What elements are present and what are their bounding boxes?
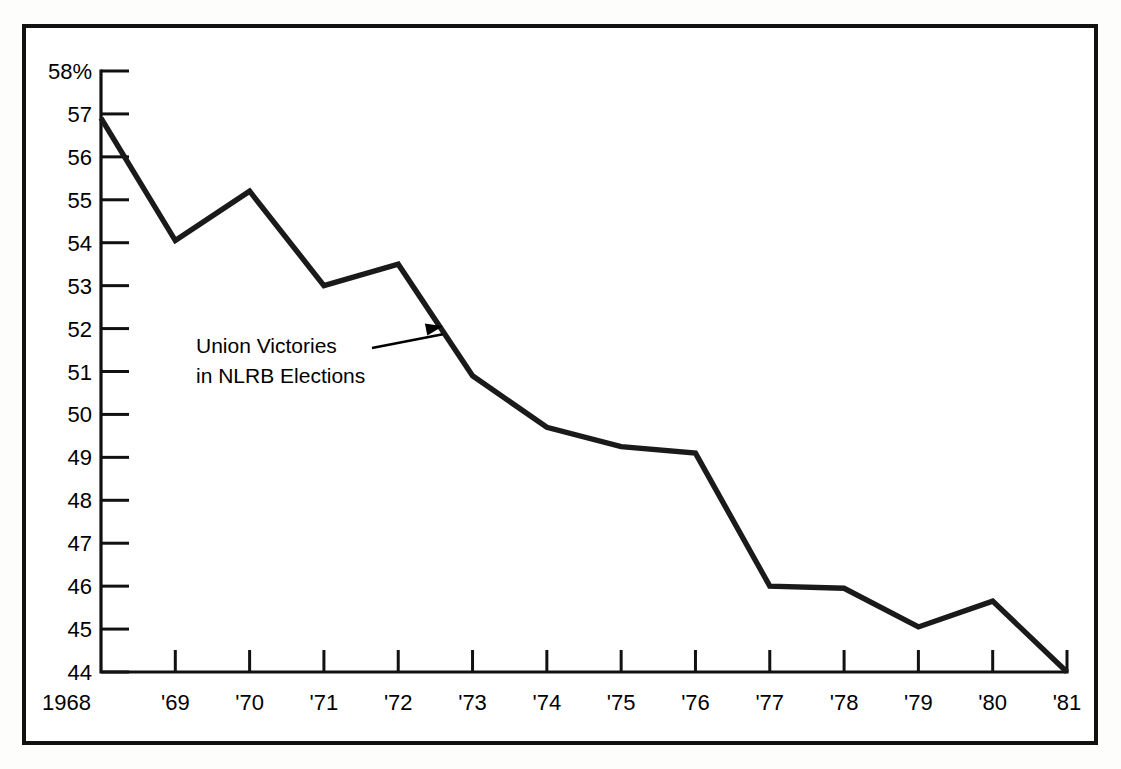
x-tick-label: '71 [310, 690, 339, 715]
x-tick-label: '75 [607, 690, 636, 715]
x-tick-label: '77 [755, 690, 784, 715]
y-tick-label: 58% [48, 59, 92, 84]
x-tick-label: '72 [384, 690, 413, 715]
x-tick-label: '78 [830, 690, 859, 715]
line-chart: 58%5756555453525150494847464544 1968'69'… [0, 0, 1121, 769]
y-axis-tick-labels: 58%5756555453525150494847464544 [48, 59, 92, 685]
x-tick-label: '81 [1053, 690, 1082, 715]
y-tick-label: 56 [68, 145, 92, 170]
x-tick-label: 1968 [42, 690, 91, 715]
y-tick-label: 49 [68, 445, 92, 470]
annotation-line-2: in NLRB Elections [196, 364, 365, 387]
x-tick-label: '74 [533, 690, 562, 715]
chart-svg: 58%5756555453525150494847464544 1968'69'… [0, 0, 1121, 769]
x-axis-ticks [175, 650, 1067, 672]
y-tick-label: 54 [68, 231, 92, 256]
y-tick-label: 53 [68, 274, 92, 299]
y-tick-label: 51 [68, 360, 92, 385]
y-tick-label: 45 [68, 617, 92, 642]
x-axis-tick-labels: 1968'69'70'71'72'73'74'75'76'77'78'79'80… [42, 690, 1081, 715]
y-tick-label: 52 [68, 317, 92, 342]
data-series-line [101, 118, 1067, 672]
y-tick-label: 55 [68, 188, 92, 213]
y-tick-label: 50 [68, 402, 92, 427]
y-tick-label: 46 [68, 574, 92, 599]
x-tick-label: '73 [458, 690, 487, 715]
x-tick-label: '76 [681, 690, 710, 715]
x-tick-label: '70 [235, 690, 264, 715]
x-tick-label: '79 [904, 690, 933, 715]
y-tick-label: 57 [68, 102, 92, 127]
chart-page: 58%5756555453525150494847464544 1968'69'… [0, 0, 1121, 769]
x-tick-label: '69 [161, 690, 190, 715]
annotation-line-1: Union Victories [196, 334, 337, 357]
annotation-arrow [372, 323, 443, 348]
y-tick-label: 47 [68, 531, 92, 556]
y-tick-label: 48 [68, 488, 92, 513]
y-tick-label: 44 [68, 660, 92, 685]
x-tick-label: '80 [978, 690, 1007, 715]
